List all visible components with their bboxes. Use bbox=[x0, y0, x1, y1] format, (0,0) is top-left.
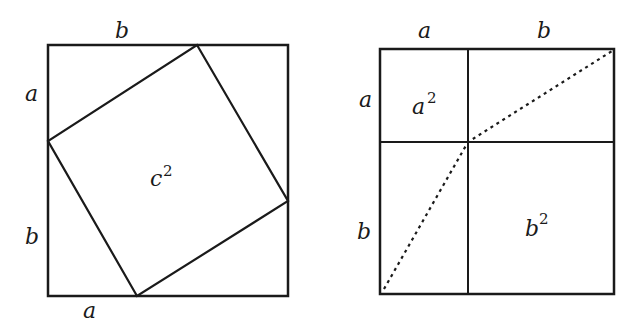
right-outer-square bbox=[380, 49, 614, 294]
label-top-a: a bbox=[418, 18, 431, 43]
label-left-a: a bbox=[359, 87, 372, 112]
label-left-a: a bbox=[25, 81, 38, 106]
pythagorean-proof-diagram: b a b a c 2 a b a b a 2 b 2 bbox=[0, 0, 643, 326]
label-a-squared-exponent: 2 bbox=[427, 89, 437, 107]
label-bottom-a: a bbox=[83, 298, 96, 323]
label-b-squared-base: b bbox=[525, 216, 539, 241]
dotted-diagonal bbox=[384, 51, 612, 289]
label-c-squared-exponent: 2 bbox=[163, 162, 173, 180]
label-top-b: b bbox=[537, 18, 551, 43]
label-left-b: b bbox=[357, 219, 371, 244]
label-a-squared-base: a bbox=[412, 94, 425, 119]
label-top-b: b bbox=[115, 18, 129, 43]
right-figure: a b a b a 2 b 2 bbox=[357, 18, 614, 294]
label-left-b: b bbox=[25, 224, 39, 249]
label-b-squared-exponent: 2 bbox=[539, 210, 549, 228]
label-c-squared-base: c bbox=[150, 166, 162, 191]
left-figure: b a b a c 2 bbox=[25, 18, 288, 323]
